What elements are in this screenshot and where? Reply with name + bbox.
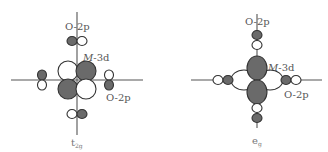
t2g-symmetry-label: t2g	[71, 137, 83, 150]
d-lobe-bottom-left	[58, 79, 78, 99]
d-lobe-top	[247, 56, 267, 80]
d-lobe-bottom-right	[76, 79, 96, 99]
t2g-ligand-label-top: O-2p	[65, 21, 90, 32]
d-lobe-top-left	[58, 61, 78, 81]
eg-ligand-right	[281, 76, 301, 85]
eg-diagram: O-2p O-2p M-3d eg	[191, 14, 322, 148]
eg-ligand-label-right: O-2p	[284, 89, 309, 100]
t2g-metal-label: M-3d	[82, 52, 110, 63]
t2g-ligand-label-right: O-2p	[106, 92, 131, 103]
eg-symmetry-label: eg	[252, 135, 262, 148]
eg-ligand-top	[252, 31, 262, 50]
d-lobe-bottom	[247, 80, 267, 104]
t2g-diagram: O-2p O-2p M-3d t2g	[11, 12, 143, 150]
eg-ligand-left	[213, 76, 233, 85]
eg-metal-label: M-3d	[267, 62, 295, 73]
d-lobe-top-right	[76, 61, 96, 81]
eg-ligand-bottom	[252, 104, 262, 123]
eg-ligand-label-top: O-2p	[245, 16, 270, 27]
orbital-diagram-canvas: O-2p O-2p M-3d t2g	[0, 0, 328, 152]
